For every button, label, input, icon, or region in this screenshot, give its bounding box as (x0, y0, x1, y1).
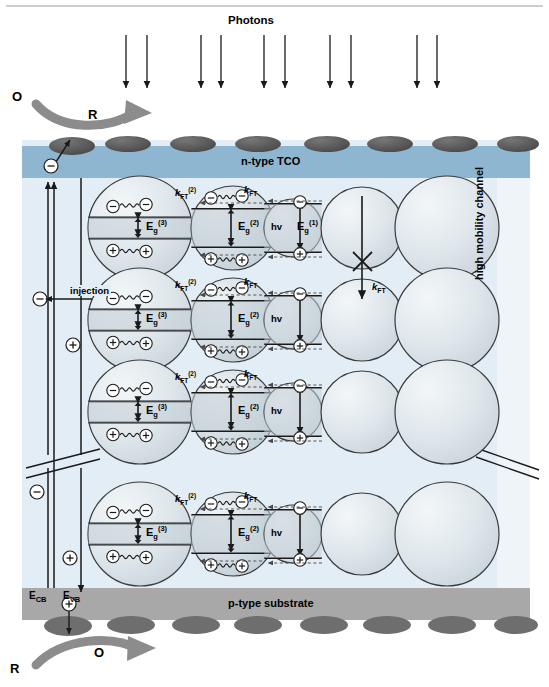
row-4-eg2-label: Eg(2) (238, 524, 259, 541)
row-2-hv-label-base: hv (271, 313, 282, 324)
row-3-eg2-label-sup: (2) (250, 402, 259, 411)
midgap-hole (66, 338, 80, 352)
row-3-eg2-label: Eg(2) (238, 402, 259, 419)
row-1-kft2-label: kFT(2) (175, 186, 196, 200)
row-2-kft-label-sub: FT (249, 282, 257, 289)
row-2-eg3-label-sup: (3) (158, 310, 167, 319)
row-2-eg3-label: Eg(3) (146, 310, 167, 327)
blocked-kft-label: kFT (372, 281, 386, 294)
qd-circle (395, 482, 499, 586)
redox-r-bottom-label: R (10, 661, 19, 676)
row-1-eg2-label-sub: g (245, 226, 250, 235)
row-3-kft-label: kFT (244, 368, 257, 381)
qd-circle (395, 268, 499, 372)
band-gap-region (191, 301, 274, 339)
panel-right-edge (497, 140, 530, 595)
row-4-eg3-label: Eg(3) (146, 524, 167, 541)
photon-group (126, 35, 437, 88)
quantum-dot-energy-diagram (0, 0, 549, 687)
row-1-hv-label: hv (271, 221, 282, 232)
row-1-kft2-label-sub: FT (180, 193, 188, 200)
row-1-eg2-label-sup: (2) (250, 218, 259, 227)
quantum-dot (191, 492, 275, 576)
quantum-dot (321, 371, 403, 453)
row-4-hv-label-base: hv (271, 527, 282, 538)
row-1-eg1-label-sup: (1) (309, 218, 318, 227)
redox-o-bottom-label: O (94, 645, 104, 660)
redox-r-top-label: R (88, 107, 97, 122)
quantum-dot (395, 482, 499, 586)
row-1-kft-label-sub: FT (249, 190, 257, 197)
row-3-hv-label: hv (271, 405, 282, 416)
e-vb-sub: VB (70, 595, 80, 604)
qd-circle (321, 371, 403, 453)
row-4-kft2-label-sub: FT (180, 499, 188, 506)
row-4-eg3-label-sup: (3) (158, 524, 167, 533)
row-4-kft-label-sub: FT (249, 496, 257, 503)
substrate-label: p-type substrate (228, 597, 314, 609)
injection-label: injection (68, 285, 111, 296)
row-1-eg3-label-sup: (3) (158, 218, 167, 227)
row-2-eg3-label-sub: g (153, 318, 158, 327)
redox-o-top-label: O (12, 89, 22, 104)
photons-label: Photons (228, 14, 274, 26)
e-cb-label: ECB (29, 590, 47, 604)
quantum-dot (321, 493, 403, 575)
row-3-kft2-label-sup: (2) (188, 370, 196, 377)
row-1-kft-label: kFT (244, 184, 257, 197)
row-1-eg2-label: Eg(2) (238, 218, 259, 235)
row-1-eg3-label-sub: g (153, 226, 158, 235)
row-2-kft2-label-sup: (2) (188, 278, 196, 285)
e-cb-sub: CB (36, 595, 47, 604)
row-3-kft-label-sub: FT (249, 374, 257, 381)
row-1-eg1-label-sub: g (304, 226, 309, 235)
quantum-dot (191, 278, 275, 362)
row-3-eg3-label: Eg(3) (146, 402, 167, 419)
qd-circle (321, 493, 403, 575)
row-4-hv-label: hv (271, 527, 282, 538)
row-1-kft2-label-sup: (2) (188, 186, 196, 193)
row-4-kft-label: kFT (244, 490, 257, 503)
band-gap-region (191, 209, 274, 247)
quantum-dot (191, 370, 275, 454)
row-2-kft2-label: kFT(2) (175, 278, 196, 292)
row-2-kft-label: kFT (244, 276, 257, 289)
quantum-dot (191, 186, 275, 270)
row-4-eg2-label-sup: (2) (250, 524, 259, 533)
row-2-eg2-label: Eg(2) (238, 310, 259, 327)
band-gap-region (191, 515, 274, 553)
row-1-eg1-label: Eg(1) (297, 218, 318, 235)
row-4-eg3-label-sub: g (153, 532, 158, 541)
row-2-eg2-label-sup: (2) (250, 310, 259, 319)
row-3-eg3-label-sup: (3) (158, 402, 167, 411)
row-3-eg2-label-sub: g (245, 410, 250, 419)
e-vb-base: E (63, 590, 70, 601)
row-4-kft2-label-sup: (2) (188, 492, 196, 499)
row-1-eg3-label: Eg(3) (146, 218, 167, 235)
row-3-kft2-label-sub: FT (180, 377, 188, 384)
tco-label: n-type TCO (241, 155, 300, 167)
midgap-hole-2 (63, 551, 77, 565)
row-3-eg3-label-sub: g (153, 410, 158, 419)
row-4-kft2-label: kFT(2) (175, 492, 196, 506)
midgap-electron (30, 485, 44, 499)
qd-circle (395, 360, 499, 464)
quantum-dot (395, 268, 499, 372)
high-mobility-channel-label: high mobility channel (473, 167, 485, 280)
row-3-kft2-label: kFT(2) (175, 370, 196, 384)
blocked-kft-sub: FT (377, 287, 386, 294)
e-vb-label: EVB (63, 590, 80, 604)
row-1-hv-label-base: hv (271, 221, 282, 232)
row-2-kft2-label-sub: FT (180, 285, 188, 292)
row-3-hv-label-base: hv (271, 405, 282, 416)
row-4-eg2-label-sub: g (245, 532, 250, 541)
quantum-dot (395, 360, 499, 464)
row-2-eg2-label-sub: g (245, 318, 250, 327)
e-cb-base: E (29, 590, 36, 601)
band-gap-region (191, 393, 274, 431)
row-2-hv-label: hv (271, 313, 282, 324)
